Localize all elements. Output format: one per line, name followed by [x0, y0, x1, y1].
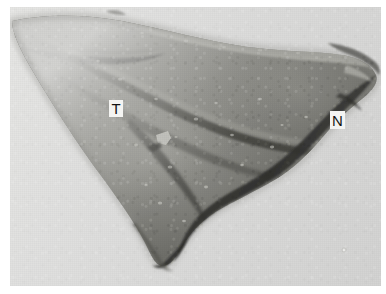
specimen-illustration	[10, 7, 381, 286]
annotation-label-n: N	[330, 111, 345, 129]
annotation-label-t: T	[109, 100, 123, 117]
figure-root: T N	[0, 0, 386, 294]
specimen-photograph: T N	[10, 7, 381, 286]
